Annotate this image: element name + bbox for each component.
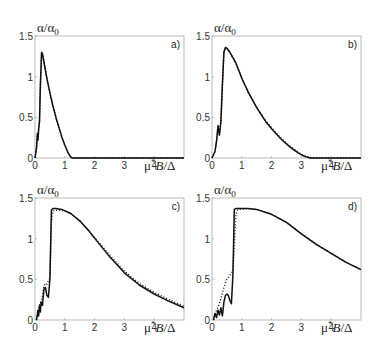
x-tick-label: 0 xyxy=(209,160,215,171)
x-tick-label: 0 xyxy=(32,322,38,333)
figure-2x2-grid: 0123400.511.5α/α0μ*B/Δa) 0123400.511.5α/… xyxy=(0,0,387,363)
series-dotted xyxy=(214,209,362,320)
x-tick-label: 2 xyxy=(92,160,98,171)
panel-label: a) xyxy=(171,39,180,50)
series-dotted xyxy=(37,210,185,320)
y-tick-label: 0.5 xyxy=(19,112,33,123)
y-tick-label: 0 xyxy=(27,315,33,326)
panel-d: 0123400.511.5α/α0μ*B/Δd) xyxy=(196,182,361,335)
y-tick-label: 1.5 xyxy=(196,31,210,42)
y-tick-label: 1 xyxy=(204,72,210,83)
x-tick-label: 0 xyxy=(209,322,215,333)
y-tick-label: 0.5 xyxy=(196,274,210,285)
y-tick-label: 1.5 xyxy=(196,193,210,204)
x-tick-label: 1 xyxy=(239,322,245,333)
panel-a: 0123400.511.5α/α0μ*B/Δa) xyxy=(19,20,184,173)
y-axis-label: α/α0 xyxy=(214,182,236,199)
x-tick-label: 1 xyxy=(239,160,245,171)
axes-box xyxy=(35,36,184,158)
y-tick-label: 1 xyxy=(27,234,33,245)
x-tick-label: 1 xyxy=(62,160,68,171)
series-solid xyxy=(212,47,361,158)
x-tick-label: 1 xyxy=(62,322,68,333)
x-tick-label: 3 xyxy=(299,160,305,171)
x-tick-label: 3 xyxy=(122,160,128,171)
panel-label: d) xyxy=(348,201,357,212)
series-solid xyxy=(35,52,184,158)
y-tick-label: 1.5 xyxy=(19,31,33,42)
y-tick-label: 1 xyxy=(204,234,210,245)
y-tick-label: 0 xyxy=(27,153,33,164)
y-tick-label: 0 xyxy=(204,153,210,164)
x-tick-label: 2 xyxy=(269,160,275,171)
y-axis-label: α/α0 xyxy=(37,182,59,199)
x-axis-label: μ*B/Δ xyxy=(321,319,352,335)
x-tick-label: 3 xyxy=(122,322,128,333)
series-solid xyxy=(37,209,185,320)
x-axis-label: μ*B/Δ xyxy=(144,157,175,173)
series-dotted xyxy=(35,53,184,158)
y-tick-label: 1 xyxy=(27,72,33,83)
panel-c: 0123400.511.5α/α0μ*B/Δc) xyxy=(19,182,184,335)
x-tick-label: 2 xyxy=(92,322,98,333)
panel-b: 0123400.511.5α/α0μ*B/Δb) xyxy=(196,20,361,173)
y-tick-label: 0.5 xyxy=(196,112,210,123)
y-tick-label: 0.5 xyxy=(19,274,33,285)
x-tick-label: 2 xyxy=(269,322,275,333)
y-tick-label: 0 xyxy=(204,315,210,326)
x-tick-label: 3 xyxy=(299,322,305,333)
x-tick-label: 0 xyxy=(32,160,38,171)
x-axis-label: μ*B/Δ xyxy=(144,319,175,335)
x-axis-label: μ*B/Δ xyxy=(321,157,352,173)
axes-box xyxy=(35,198,184,320)
y-axis-label: α/α0 xyxy=(37,20,59,37)
y-tick-label: 1.5 xyxy=(19,193,33,204)
y-axis-label: α/α0 xyxy=(214,20,236,37)
axes-box xyxy=(212,36,361,158)
panel-label: c) xyxy=(172,201,180,212)
panel-label: b) xyxy=(348,39,357,50)
series-dotted xyxy=(212,48,361,158)
